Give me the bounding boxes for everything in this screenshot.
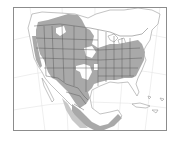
range-map — [0, 0, 180, 145]
map-svg — [0, 0, 180, 145]
